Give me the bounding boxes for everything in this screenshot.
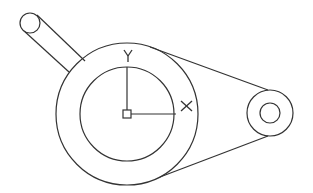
ucs-y-label-glyph bbox=[124, 50, 132, 62]
arm bbox=[20, 13, 85, 72]
pulley-inner-circle bbox=[260, 103, 280, 123]
arm-edge-bottom bbox=[23, 30, 69, 72]
ucs-origin-square bbox=[123, 110, 131, 118]
belt-bottom-tangent bbox=[160, 136, 268, 177]
arm-edge-top bbox=[37, 15, 85, 61]
pulley-outer-circle bbox=[247, 90, 293, 136]
arm-end-circle bbox=[20, 13, 40, 33]
cad-drawing-canvas: Y X bbox=[0, 0, 313, 193]
pulley bbox=[247, 90, 293, 136]
ucs-x-label-glyph bbox=[181, 101, 192, 111]
belt bbox=[150, 47, 268, 177]
ucs-icon bbox=[123, 67, 176, 118]
belt-top-tangent bbox=[150, 47, 268, 90]
